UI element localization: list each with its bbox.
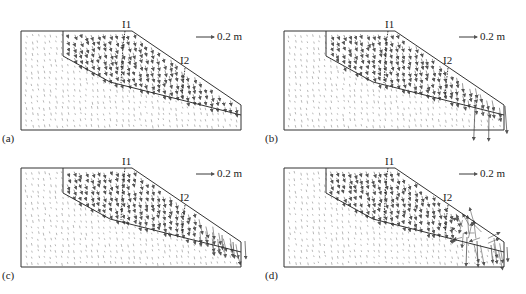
inclinometer-label-i1: I1 (385, 19, 394, 30)
inclinometer-label-i2: I2 (180, 55, 189, 66)
inclinometer-label-i2: I2 (443, 55, 452, 66)
panel-a: I1 I2 0.2 m (a) (0, 0, 263, 147)
displacement-field-plot (0, 0, 263, 147)
panel-c: I1 I2 0.2 m (c) (0, 137, 263, 284)
inclinometer-label-i2: I2 (180, 192, 189, 203)
displacement-field-plot (263, 0, 526, 147)
scale-label: 0.2 m (217, 31, 242, 42)
panel-label: (d) (265, 270, 278, 281)
displacement-vector-figure: I1 I2 0.2 m (a) I1 I2 0.2 m (b) I1 I2 0.… (0, 0, 526, 294)
scale-label: 0.2 m (480, 168, 505, 179)
panel-label: (c) (2, 270, 14, 281)
inclinometer-label-i1: I1 (122, 19, 131, 30)
panel-d: I1 I2 0.2 m (d) (263, 137, 526, 284)
displacement-field-plot (263, 137, 526, 284)
inclinometer-label-i2: I2 (443, 192, 452, 203)
scale-label: 0.2 m (217, 168, 242, 179)
inclinometer-label-i1: I1 (385, 156, 394, 167)
scale-label: 0.2 m (480, 31, 505, 42)
panel-b: I1 I2 0.2 m (b) (263, 0, 526, 147)
inclinometer-label-i1: I1 (122, 156, 131, 167)
displacement-field-plot (0, 137, 263, 284)
